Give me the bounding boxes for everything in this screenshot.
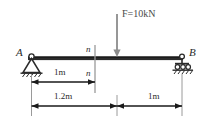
section-marker-bottom: n (86, 69, 91, 78)
support-label-a: A (16, 47, 23, 58)
section-marker-top: n (86, 45, 91, 54)
beam-diagram-figure: A B F=10kN n n 1m 1.2m 1m (0, 0, 203, 137)
beam-member (28, 57, 183, 61)
dimension-1p2m-a-to-load (32, 103, 118, 108)
dimension-label-1m-a: 1m (54, 68, 66, 77)
dimension-label-1m-b: 1m (148, 92, 160, 101)
support-label-b: B (189, 47, 196, 58)
dimension-label-1p2m: 1.2m (54, 92, 72, 101)
dimension-1m-load-to-b (117, 103, 182, 108)
force-arrow (113, 14, 120, 57)
force-label: F=10kN (122, 9, 155, 19)
dimension-1m-a-to-section (32, 79, 96, 84)
beam-diagram-canvas (0, 0, 203, 137)
